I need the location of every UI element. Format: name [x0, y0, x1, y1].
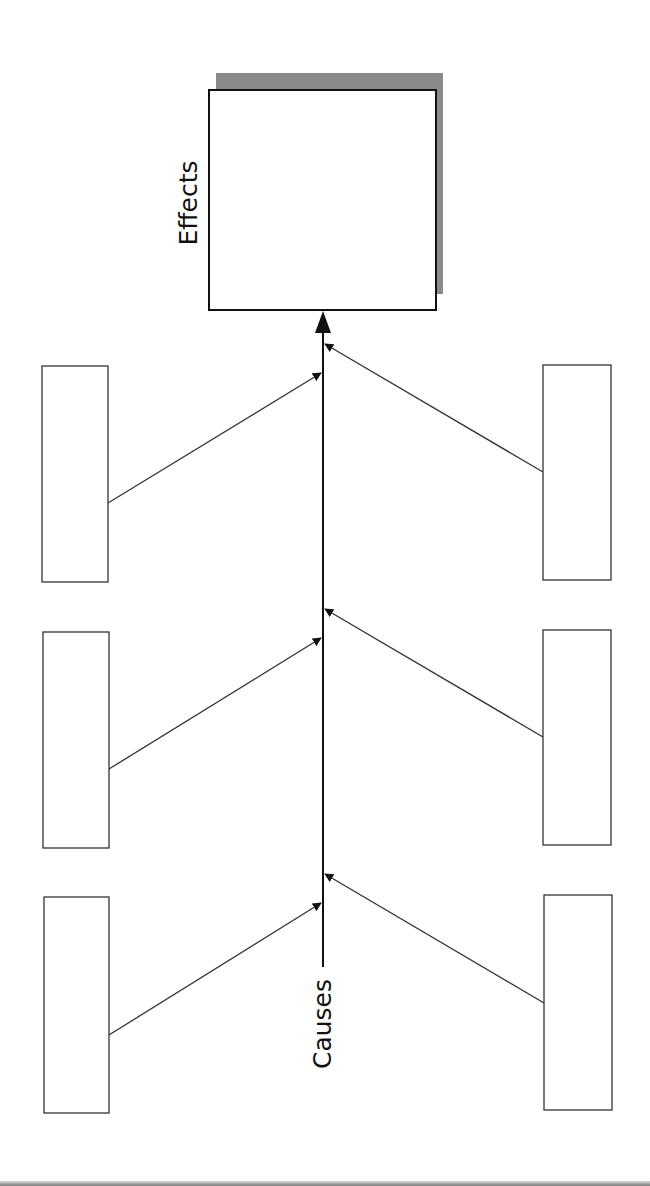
branches-group	[108, 344, 544, 1035]
cause-box-bottom-right[interactable]	[544, 895, 612, 1110]
branch-arrow-middle-right	[325, 609, 543, 737]
bottom-border	[0, 1181, 650, 1186]
causes-label: Causes	[308, 979, 337, 1069]
cause-box-top-left[interactable]	[42, 366, 108, 582]
branch-arrow-bottom-right	[325, 874, 544, 1003]
cause-box-middle-left[interactable]	[43, 632, 109, 848]
spine-arrowhead-icon	[315, 311, 331, 333]
branch-arrow-bottom-left	[109, 903, 321, 1035]
branch-arrow-top-right	[325, 344, 543, 472]
branch-arrow-middle-left	[109, 638, 321, 769]
cause-box-top-right[interactable]	[543, 365, 611, 580]
cause-box-bottom-left[interactable]	[44, 897, 109, 1113]
cause-box-middle-right[interactable]	[543, 630, 611, 845]
branch-arrow-top-left	[108, 373, 321, 503]
effect-box[interactable]	[209, 90, 436, 310]
effects-label: Effects	[174, 161, 203, 246]
